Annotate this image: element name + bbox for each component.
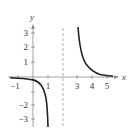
y-tick-label: 2 xyxy=(24,42,29,52)
y-tick-label: 1 xyxy=(24,57,29,67)
right-branch-curve xyxy=(78,27,113,76)
y-tick-label: −3 xyxy=(18,114,28,124)
x-tick-label: −1 xyxy=(10,81,20,91)
x-tick-label: 1 xyxy=(46,81,51,91)
x-tick-label: 3 xyxy=(75,81,80,91)
x-axis-arrow-icon xyxy=(114,75,119,79)
function-graph: −1 1 3 4 5 3 2 1 −2 −3 x y xyxy=(0,0,132,131)
x-axis-label: x xyxy=(121,72,126,82)
y-axis-label: y xyxy=(29,12,34,22)
y-axis-arrow-icon xyxy=(31,24,35,29)
x-tick-label: 5 xyxy=(105,81,110,91)
y-tick-label: −2 xyxy=(18,100,28,110)
x-tick-label: 4 xyxy=(90,81,95,91)
y-tick-label: 3 xyxy=(24,28,29,38)
